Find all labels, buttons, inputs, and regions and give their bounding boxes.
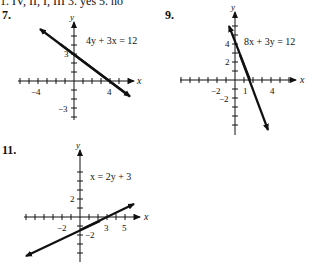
equation-7: 4y + 3x = 12 [86, 35, 137, 46]
equation-9: 8x + 3y = 12 [244, 36, 295, 47]
tick-label: 5 [122, 223, 127, 233]
tick-label: 3 [64, 49, 69, 59]
tick-label: 4 [270, 86, 275, 96]
tick-label: 4 [225, 39, 230, 49]
tick-label: −4 [31, 87, 41, 97]
tick-label: 2 [70, 194, 75, 204]
graphs: x y 4y + 3x = 12 −4 4 3 −3 x y 8x + 3y =… [0, 0, 313, 266]
tick-label: −2 [85, 230, 95, 240]
tick-label: −3 [58, 104, 68, 114]
y-axis-label: y [75, 140, 80, 150]
y-axis-label: y [69, 12, 74, 22]
graph-11: x y x = 2y + 3 −2 3 5 2 −2 [24, 140, 149, 262]
x-axis-label: x [136, 75, 142, 86]
equation-11: x = 2y + 3 [90, 171, 131, 182]
tick-label: 4 [107, 87, 112, 97]
graph-9: x y 8x + 3y = 12 −2 1 4 4 2 −2 [180, 2, 305, 135]
tick-label: −2 [57, 223, 67, 233]
graph-7: x y 4y + 3x = 12 −4 4 3 −3 [18, 12, 142, 120]
tick-label: 3 [104, 223, 109, 233]
y-axis-label: y [230, 2, 235, 12]
tick-label: 1 [243, 86, 248, 96]
x-axis-label: x [143, 211, 149, 222]
x-axis-label: x [299, 74, 305, 85]
tick-label: 2 [225, 57, 230, 67]
tick-label: −2 [219, 94, 229, 104]
